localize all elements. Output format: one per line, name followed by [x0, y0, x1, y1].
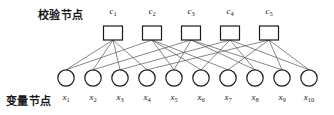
tanner-edge: [113, 40, 120, 70]
variable-node-x6-label: x6: [197, 92, 204, 102]
check-node-c4-label: c4: [226, 6, 233, 16]
variable-node-layer: [58, 70, 317, 86]
check-node-c3-label: c3: [187, 6, 194, 16]
tanner-edge: [66, 40, 113, 70]
check-node-c2-label: c2: [148, 6, 155, 16]
check-node-c1-label: c1: [109, 6, 116, 16]
tanner-edge: [191, 40, 282, 70]
tanner-edge: [269, 40, 309, 70]
tanner-graph-figure: 校验节点 变量节点 c1c2c3c4c5x1x2x3x4x5x6x7x8x9x1…: [0, 0, 334, 115]
tanner-edge: [120, 40, 230, 70]
variable-node-x10-label: x10: [304, 92, 315, 102]
check-node-c1[interactable]: [104, 26, 123, 40]
check-node-c5[interactable]: [260, 26, 279, 40]
variable-node-x8-label: x8: [251, 92, 258, 102]
check-nodes-row-label: 校验节点: [38, 6, 84, 22]
variable-node-x2-label: x2: [89, 92, 96, 102]
variable-nodes-row-label: 变量节点: [6, 92, 52, 108]
check-node-c2[interactable]: [143, 26, 162, 40]
variable-node-x8[interactable]: [247, 70, 263, 86]
tanner-edge: [66, 40, 152, 70]
edge-layer: [66, 40, 309, 70]
variable-node-x1[interactable]: [58, 70, 74, 86]
variable-node-x4-label: x4: [143, 92, 150, 102]
check-node-c4[interactable]: [221, 26, 240, 40]
variable-node-x1-label: x1: [62, 92, 69, 102]
variable-node-x10[interactable]: [301, 70, 317, 86]
variable-node-x3-label: x3: [116, 92, 123, 102]
variable-node-x5[interactable]: [166, 70, 182, 86]
check-node-c5-label: c5: [265, 6, 272, 16]
variable-node-x3[interactable]: [112, 70, 128, 86]
check-node-c3[interactable]: [182, 26, 201, 40]
variable-node-x9[interactable]: [274, 70, 290, 86]
check-node-layer: [104, 26, 279, 40]
variable-node-x6[interactable]: [193, 70, 209, 86]
variable-node-x5-label: x5: [170, 92, 177, 102]
variable-node-x4[interactable]: [139, 70, 155, 86]
tanner-edge: [147, 40, 269, 70]
variable-node-x7-label: x7: [224, 92, 231, 102]
variable-node-x2[interactable]: [85, 70, 101, 86]
tanner-edge: [191, 40, 255, 70]
variable-node-x7[interactable]: [220, 70, 236, 86]
variable-node-x9-label: x9: [278, 92, 285, 102]
tanner-edge: [230, 40, 309, 70]
